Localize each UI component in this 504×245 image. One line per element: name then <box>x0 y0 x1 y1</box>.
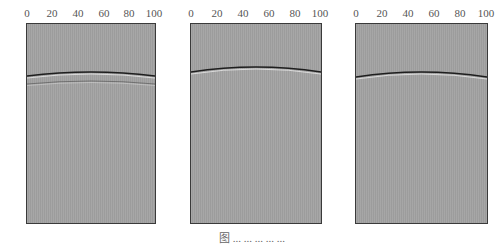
x-tick: 0 <box>188 8 194 19</box>
x-tick: 60 <box>264 8 275 19</box>
seismic-image-1 <box>26 23 156 224</box>
x-tick: 60 <box>429 8 440 19</box>
x-tick: 40 <box>238 8 249 19</box>
seismic-image-2 <box>190 23 322 224</box>
x-tick: 20 <box>377 8 388 19</box>
seismic-image-3 <box>355 23 488 224</box>
x-tick: 0 <box>353 8 359 19</box>
x-tick: 100 <box>146 8 163 19</box>
x-tick: 80 <box>290 8 301 19</box>
x-tick: 20 <box>212 8 223 19</box>
x-tick: 80 <box>124 8 135 19</box>
x-tick: 100 <box>312 8 329 19</box>
x-tick: 100 <box>478 8 495 19</box>
x-tick: 80 <box>455 8 466 19</box>
x-tick: 0 <box>24 8 30 19</box>
figure-caption: 图 ... ... ... ... ... <box>0 229 504 241</box>
x-tick: 20 <box>47 8 58 19</box>
x-tick: 40 <box>403 8 414 19</box>
x-tick: 60 <box>99 8 110 19</box>
x-tick: 40 <box>73 8 84 19</box>
